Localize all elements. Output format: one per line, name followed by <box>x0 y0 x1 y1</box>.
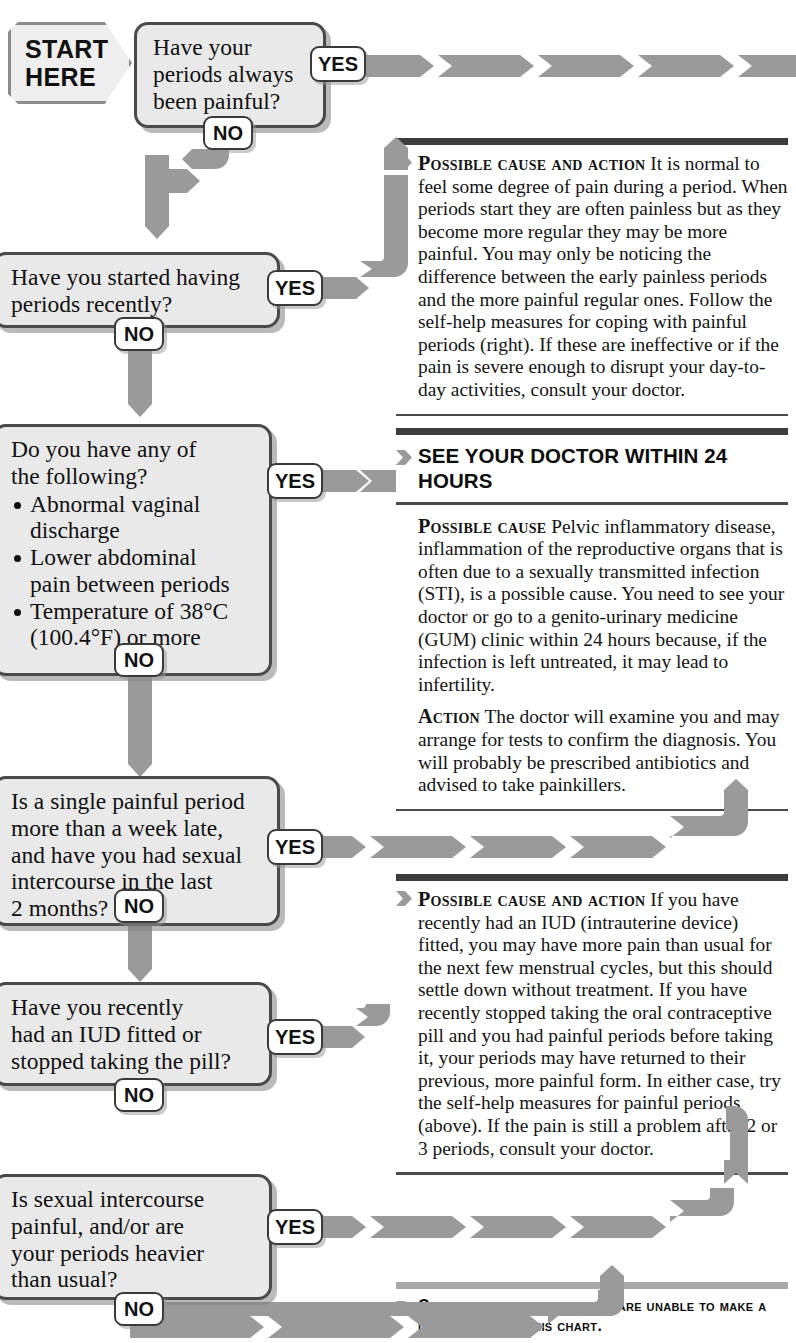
footer-text: Consult your doctor if you are unable to… <box>396 1296 788 1336</box>
answer-block-1-lead: Possible cause and action <box>418 152 645 174</box>
q2-yes-tab[interactable]: YES <box>267 270 323 306</box>
q5-line-2: had an IUD fitted or <box>11 1021 255 1048</box>
q6-line-4: than usual? <box>11 1266 255 1293</box>
q1-yes-tab[interactable]: YES <box>310 46 366 82</box>
question-box-q3[interactable]: Do you have any of the following? Abnorm… <box>0 424 272 676</box>
q5-yes-tab[interactable]: YES <box>267 1019 323 1055</box>
q6-line-3: your periods heavier <box>11 1240 255 1267</box>
q3-bullet-2-line-2: pain between periods <box>30 571 255 598</box>
q3-bullet-1-line-1: Abnormal vaginal <box>30 491 255 518</box>
q6-line-2: painful, and/or are <box>11 1213 255 1240</box>
q2-no-tab[interactable]: NO <box>114 317 164 351</box>
q3-bullet-list: Abnormal vaginal discharge Lower abdomin… <box>11 491 255 652</box>
answer-block-3-top-rule <box>396 874 788 881</box>
q3-bullet-3-line-1: Temperature of 38°C <box>30 598 255 625</box>
answer-block-2-top-rule <box>396 428 788 435</box>
answer-block-2-headline: SEE YOUR DOCTOR WITHIN 24 HOURS <box>396 442 788 493</box>
q4-yes-tab[interactable]: YES <box>267 829 323 865</box>
q4-no-tab[interactable]: NO <box>114 889 164 923</box>
q3-no-tab[interactable]: NO <box>114 643 164 677</box>
q1-no-tab[interactable]: NO <box>203 116 253 150</box>
answer-block-3-bottom-rule <box>396 1172 788 1175</box>
q5-no-tab[interactable]: NO <box>114 1078 164 1112</box>
q3-line-2: the following? <box>11 463 255 490</box>
answer-block-3-lead: Possible cause and action <box>418 888 645 910</box>
q4-line-1: Is a single painful period <box>11 788 263 815</box>
answer-block-2-body: Pelvic inflammatory disease, inflammatio… <box>418 516 784 695</box>
start-label-line2: HERE <box>25 63 129 91</box>
answer-block-3-paragraph: Possible cause and action If you have re… <box>396 888 788 1160</box>
q3-bullet-1: Abnormal vaginal discharge <box>11 491 255 545</box>
q3-bullet-2: Lower abdominal pain between periods <box>11 544 255 598</box>
q4-line-3: and have you had sexual <box>11 842 263 869</box>
q1-line-3: been painful? <box>153 88 309 115</box>
answer-block-1-body: It is normal to feel some degree of pain… <box>418 153 788 400</box>
answer-block-3-body: If you have recently had an IUD (intraut… <box>418 889 781 1159</box>
answer-block-2-paragraph-2: Action The doctor will examine you and m… <box>396 705 788 796</box>
q3-bullet-1-line-2: discharge <box>30 517 255 544</box>
q4-line-2: more than a week late, <box>11 815 263 842</box>
q3-line-1: Do you have any of <box>11 436 255 463</box>
answer-block-3: Possible cause and action If you have re… <box>396 874 788 1175</box>
answer-block-1-top-rule <box>396 138 788 145</box>
answer-block-1-paragraph: Possible cause and action It is normal t… <box>396 152 788 402</box>
q5-line-3: stopped taking the pill? <box>11 1048 255 1075</box>
footer-block: Consult your doctor if you are unable to… <box>396 1282 788 1336</box>
question-box-q6[interactable]: Is sexual intercourse painful, and/or ar… <box>0 1174 272 1300</box>
q5-line-1: Have you recently <box>11 994 255 1021</box>
q6-yes-tab[interactable]: YES <box>267 1209 323 1245</box>
q6-line-1: Is sexual intercourse <box>11 1186 255 1213</box>
q2-line-2: periods recently? <box>11 291 263 318</box>
footer-top-rule <box>396 1282 788 1289</box>
answer-block-2-lead2: Action <box>418 705 480 727</box>
q1-line-2: periods always <box>153 61 309 88</box>
answer-block-2-mid-rule <box>396 502 788 505</box>
answer-block-2-paragraph-1: Possible cause Pelvic inflammatory disea… <box>396 515 788 697</box>
q6-no-tab[interactable]: NO <box>114 1292 164 1326</box>
q3-yes-tab[interactable]: YES <box>267 463 323 499</box>
answer-block-2: SEE YOUR DOCTOR WITHIN 24 HOURS Possible… <box>396 428 788 811</box>
question-box-q5[interactable]: Have you recently had an IUD fitted or s… <box>0 982 272 1086</box>
flowchart-page: START HERE Have your periods always been… <box>0 0 796 1343</box>
answer-block-2-lead: Possible cause <box>418 515 546 537</box>
answer-block-2-bottom-rule <box>396 809 788 812</box>
q2-line-1: Have you started having <box>11 264 263 291</box>
start-label-line1: START <box>25 35 129 63</box>
start-here-flag: START HERE <box>8 22 132 104</box>
answer-block-1-bottom-rule <box>396 414 788 417</box>
q3-bullet-2-line-1: Lower abdominal <box>30 544 255 571</box>
answer-block-1: Possible cause and action It is normal t… <box>396 138 788 416</box>
question-box-q1[interactable]: Have your periods always been painful? <box>134 22 326 128</box>
q1-line-1: Have your <box>153 34 309 61</box>
